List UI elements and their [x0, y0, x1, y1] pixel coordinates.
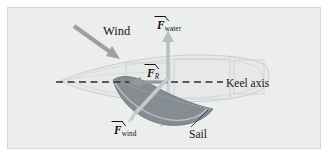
- f-wind-symbol: F: [114, 125, 122, 137]
- f-wind-subscript: wind: [122, 130, 137, 138]
- f-water-subscript: water: [165, 25, 181, 33]
- f-wind-label: Fwind: [114, 125, 136, 137]
- f-r-subscript: R: [155, 73, 160, 81]
- figure-panel: Wind Keel axis Sail Fwater FR Fwind: [7, 7, 321, 149]
- wind-label: Wind: [103, 25, 130, 38]
- f-water-label: Fwater: [157, 20, 181, 32]
- keel-axis-label: Keel axis: [226, 78, 269, 90]
- sail-label: Sail: [189, 129, 207, 141]
- f-r-label: FR: [147, 68, 159, 80]
- f-r-symbol: F: [147, 68, 155, 80]
- figure-root: Wind Keel axis Sail Fwater FR Fwind: [0, 0, 332, 160]
- f-water-symbol: F: [157, 20, 165, 32]
